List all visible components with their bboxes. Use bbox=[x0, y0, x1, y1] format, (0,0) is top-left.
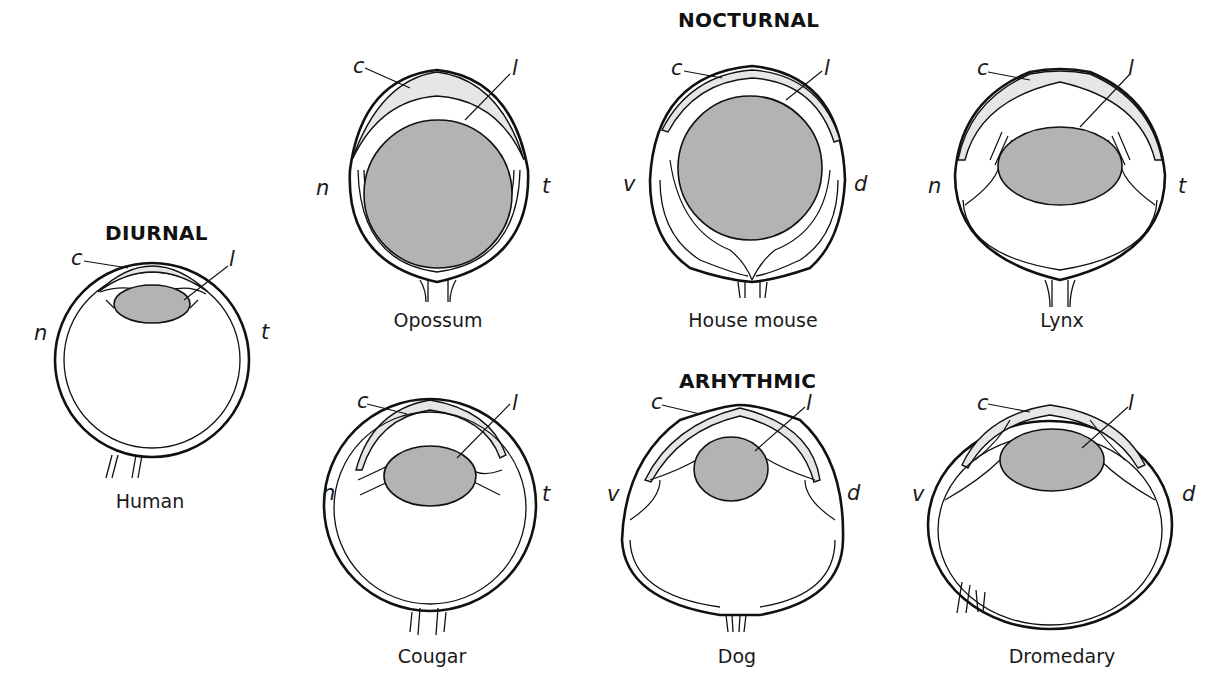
dromedary-name: Dromedary bbox=[1009, 647, 1116, 666]
dog-eye bbox=[622, 405, 843, 632]
house-mouse-right-label: d bbox=[854, 174, 867, 195]
dog-lens-label: l bbox=[806, 393, 812, 414]
dromedary-left-label: v bbox=[912, 484, 924, 505]
human-lens-label: l bbox=[229, 249, 235, 270]
human-right-label: t bbox=[261, 322, 269, 343]
opossum-cornea-label: c bbox=[353, 56, 365, 77]
dromedary-right-label: d bbox=[1182, 484, 1195, 505]
lynx-name: Lynx bbox=[1040, 311, 1083, 330]
cougar-cornea-label: c bbox=[357, 391, 369, 412]
opossum-right-label: t bbox=[542, 176, 550, 197]
human-name: Human bbox=[116, 492, 185, 511]
opossum-eye bbox=[350, 68, 528, 302]
cougar-eye bbox=[324, 399, 536, 635]
dog-name: Dog bbox=[718, 647, 756, 666]
dromedary-lens-label: l bbox=[1128, 393, 1134, 414]
lynx-lens-label: l bbox=[1128, 58, 1134, 79]
opossum-left-label: n bbox=[316, 178, 329, 199]
cougar-right-label: t bbox=[542, 484, 550, 505]
house-mouse-left-label: v bbox=[623, 174, 635, 195]
dog-left-label: v bbox=[607, 484, 619, 505]
cougar-left-label: n bbox=[322, 483, 335, 504]
group-heading-diurnal: DIURNAL bbox=[105, 223, 208, 243]
human-cornea-label: c bbox=[71, 248, 83, 269]
lynx-right-label: t bbox=[1178, 176, 1186, 197]
human-eye bbox=[55, 261, 249, 478]
eye-diagram bbox=[0, 0, 1227, 695]
group-heading-nocturnal: NOCTURNAL bbox=[678, 10, 819, 30]
opossum-lens-label: l bbox=[512, 58, 518, 79]
lynx-eye bbox=[955, 69, 1165, 307]
house-mouse-name: House mouse bbox=[688, 311, 817, 330]
group-heading-arhythmic: ARHYTHMIC bbox=[679, 371, 816, 391]
lynx-left-label: n bbox=[928, 176, 941, 197]
house-mouse-eye bbox=[650, 66, 845, 298]
lynx-cornea-label: c bbox=[977, 58, 989, 79]
dromedary-eye bbox=[928, 404, 1172, 629]
dog-cornea-label: c bbox=[651, 392, 663, 413]
house-mouse-lens-label: l bbox=[824, 58, 830, 79]
house-mouse-cornea-label: c bbox=[671, 58, 683, 79]
dromedary-cornea-label: c bbox=[977, 393, 989, 414]
human-left-label: n bbox=[34, 323, 47, 344]
cougar-name: Cougar bbox=[398, 647, 466, 666]
opossum-name: Opossum bbox=[394, 311, 483, 330]
cougar-lens-label: l bbox=[512, 393, 518, 414]
dog-right-label: d bbox=[847, 483, 860, 504]
